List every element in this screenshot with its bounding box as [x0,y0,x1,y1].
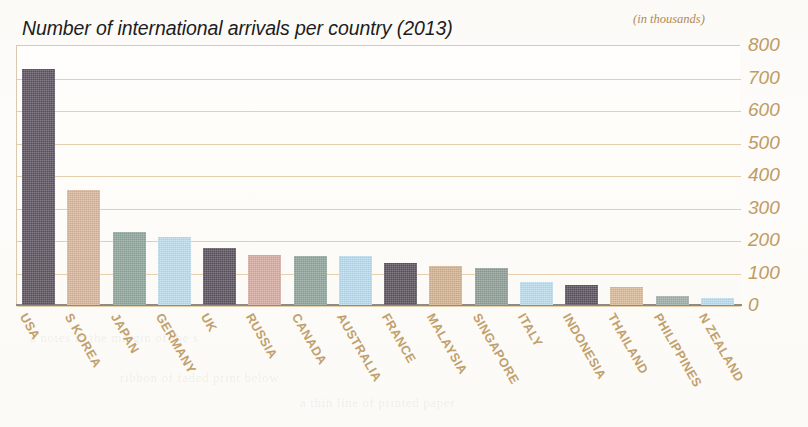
x-label-australia: AUSTRALIA [334,311,384,384]
x-label-germany: GERMANY [153,311,199,376]
units-annotation: (in thousands) [633,12,705,27]
bar-japan[interactable] [113,232,146,305]
x-label-usa: USA [17,311,43,342]
bar-philippines[interactable] [656,296,689,305]
x-label-thailand: THAILAND [605,311,651,377]
bar-texture [475,268,508,305]
bar-texture [158,237,191,305]
bar-s-korea[interactable] [67,190,100,305]
y-tick-label-600: 600 [748,100,802,119]
x-label-italy: ITALY [515,311,545,349]
page-title: Number of international arrivals per cou… [22,17,453,40]
bar-germany[interactable] [158,237,191,305]
y-tick-label-700: 700 [748,68,802,87]
bar-texture [203,248,236,305]
y-tick-label-0: 0 [748,295,802,314]
y-tick-label-400: 400 [748,165,802,184]
x-label-france: FRANCE [379,311,419,366]
bar-series [16,45,740,305]
bar-texture [520,282,553,305]
bar-uk[interactable] [203,248,236,305]
bar-texture [22,69,55,305]
chart-canvas: a notes in the margin of the s ribbon of… [0,0,808,427]
chart-header: Number of international arrivals per cou… [0,0,808,46]
x-label-indonesia: INDONESIA [560,311,609,382]
bar-russia[interactable] [248,255,281,305]
x-label-n-zealand: N ZEALAND [696,311,746,384]
bar-texture [294,256,327,305]
x-label-canada: CANADA [288,311,329,367]
y-tick-label-300: 300 [748,198,802,217]
bar-texture [384,263,417,305]
bar-texture [429,266,462,305]
bar-indonesia[interactable] [565,285,598,305]
y-tick-label-500: 500 [748,133,802,152]
bar-texture [339,256,372,305]
bar-malaysia[interactable] [429,266,462,305]
bar-texture [656,296,689,305]
x-label-s-korea: S KOREA [62,311,104,370]
bar-italy[interactable] [520,282,553,305]
bar-texture [67,190,100,305]
bar-thailand[interactable] [610,287,643,305]
bar-singapore[interactable] [475,268,508,305]
x-label-singapore: SINGAPORE [469,311,521,387]
bar-texture [113,232,146,305]
bar-usa[interactable] [22,69,55,305]
bar-n-zealand[interactable] [701,298,734,305]
y-tick-label-800: 800 [748,35,802,54]
bar-australia[interactable] [339,256,372,305]
x-axis-category-labels: USAS KOREAJAPANGERMANYUKRUSSIACANADAAUST… [16,307,740,425]
x-label-malaysia: MALAYSIA [424,311,470,377]
x-label-japan: JAPAN [107,311,141,356]
bar-texture [248,255,281,305]
x-label-uk: UK [198,311,220,334]
bar-texture [610,287,643,305]
bar-france[interactable] [384,263,417,305]
bar-canada[interactable] [294,256,327,305]
bar-texture [701,298,734,305]
y-tick-label-100: 100 [748,263,802,282]
x-label-philippines: PHILIPPINES [650,311,704,390]
x-label-russia: RUSSIA [243,311,280,361]
y-tick-label-200: 200 [748,230,802,249]
bar-texture [565,285,598,305]
y-axis-tick-labels: 8007006005004003002001000 [748,45,808,307]
